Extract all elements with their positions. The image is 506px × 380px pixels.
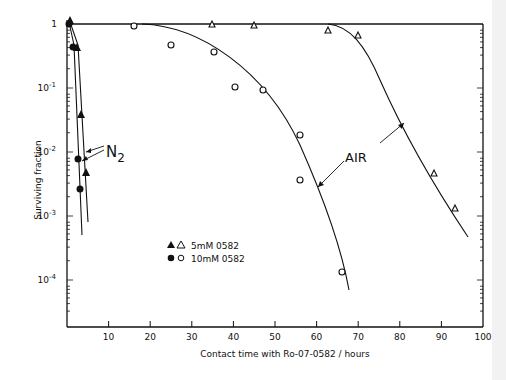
filled-circle-marker bbox=[70, 44, 77, 51]
open-circle-marker bbox=[232, 84, 238, 90]
x-tick-label: 70 bbox=[352, 332, 364, 342]
x-tick-label: 40 bbox=[228, 332, 240, 342]
y-tick-label-e4: 10-4 bbox=[38, 273, 57, 285]
x-tick-label: 10 bbox=[103, 332, 115, 342]
x-tick-labels: 10 20 30 40 50 60 70 80 90 100 bbox=[103, 332, 492, 342]
n2-line-10mm bbox=[69, 22, 82, 235]
x-tick-label: 20 bbox=[144, 332, 156, 342]
legend-label-5mm: 5mM 0582 bbox=[191, 241, 239, 251]
open-circle-marker bbox=[131, 23, 137, 29]
filled-triangle-marker bbox=[77, 110, 85, 118]
legend-label-10mm: 10mM 0582 bbox=[191, 254, 245, 264]
open-triangle-marker bbox=[431, 170, 437, 176]
air-10mm-points bbox=[131, 23, 345, 275]
open-circle-marker bbox=[260, 87, 266, 93]
legend: 5mM 0582 10mM 0582 bbox=[167, 241, 245, 264]
x-axis-label: Contact time with Ro-07-0582 / hours bbox=[200, 349, 370, 359]
open-triangle-marker bbox=[325, 27, 331, 33]
n2-annotation: N2 bbox=[82, 143, 125, 165]
x-tick-label: 60 bbox=[311, 332, 323, 342]
x-tick-label: 90 bbox=[436, 332, 448, 342]
filled-circle-marker bbox=[75, 156, 82, 163]
open-circle-marker bbox=[339, 269, 345, 275]
air-curve-10mm bbox=[142, 24, 349, 290]
y-tick-label-e1: 10-1 bbox=[38, 81, 56, 93]
legend-open-triangle-icon bbox=[177, 241, 185, 248]
open-triangle-marker bbox=[452, 205, 458, 211]
n2-label: N2 bbox=[106, 143, 125, 165]
air-curve-5mm bbox=[328, 24, 468, 237]
legend-filled-triangle-icon bbox=[167, 241, 175, 248]
x-ticks bbox=[109, 321, 442, 327]
y-axis-label: Surviving fraction bbox=[33, 140, 43, 220]
open-triangle-marker bbox=[251, 22, 257, 28]
open-triangle-marker bbox=[355, 32, 361, 38]
legend-filled-circle-icon bbox=[168, 255, 175, 262]
open-circle-marker bbox=[211, 49, 217, 55]
open-triangle-marker bbox=[209, 21, 215, 27]
legend-open-circle-icon bbox=[178, 255, 184, 261]
open-circle-marker bbox=[297, 177, 303, 183]
x-tick-label: 80 bbox=[394, 332, 406, 342]
air-annotation: AIR bbox=[318, 123, 404, 187]
n2-fit-lines bbox=[69, 22, 88, 235]
filled-triangle-marker bbox=[82, 168, 90, 176]
n2-10mm-points bbox=[66, 21, 84, 193]
filled-circle-marker bbox=[77, 186, 84, 193]
x-tick-label: 50 bbox=[269, 332, 281, 342]
y-tick-label-1: 1 bbox=[51, 19, 57, 29]
axes bbox=[67, 20, 483, 327]
survival-chart: 10 20 30 40 50 60 70 80 90 100 1 10-1 10… bbox=[0, 0, 506, 380]
filled-circle-marker bbox=[66, 21, 73, 28]
open-circle-marker bbox=[168, 42, 174, 48]
x-tick-label: 100 bbox=[474, 332, 491, 342]
air-label: AIR bbox=[345, 150, 367, 165]
open-circle-marker bbox=[297, 132, 303, 138]
air-5mm-points bbox=[209, 21, 458, 211]
x-tick-label: 30 bbox=[186, 332, 198, 342]
y-ticks bbox=[67, 24, 483, 311]
